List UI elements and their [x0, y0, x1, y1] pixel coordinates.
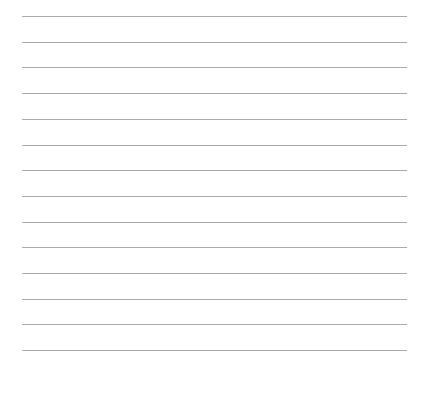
- rule-line: [22, 350, 407, 351]
- rule-line: [22, 247, 407, 248]
- rule-line: [22, 324, 407, 325]
- rule-line: [22, 273, 407, 274]
- rule-line: [22, 16, 407, 17]
- rule-line: [22, 222, 407, 223]
- rule-line: [22, 170, 407, 171]
- rule-line: [22, 93, 407, 94]
- rule-line: [22, 67, 407, 68]
- rule-line: [22, 119, 407, 120]
- rule-line: [22, 42, 407, 43]
- rule-line: [22, 145, 407, 146]
- ruled-sheet: [0, 0, 427, 400]
- rule-line: [22, 196, 407, 197]
- rule-line: [22, 299, 407, 300]
